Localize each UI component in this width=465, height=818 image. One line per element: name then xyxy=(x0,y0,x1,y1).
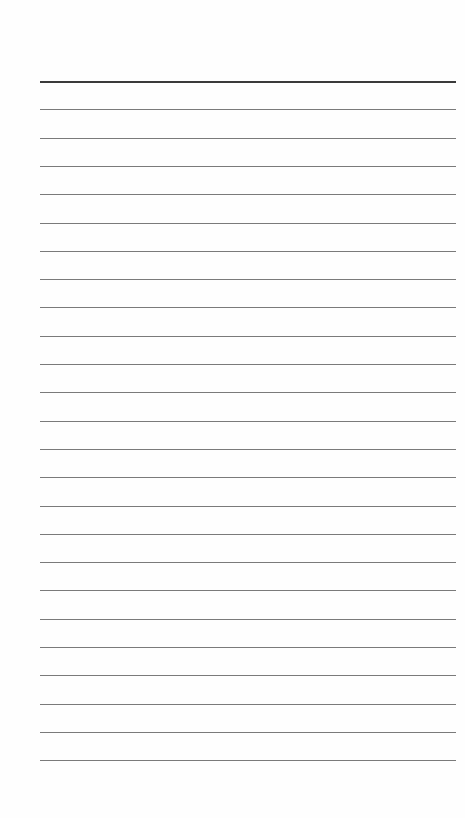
ruled-line xyxy=(40,307,456,308)
ruled-line xyxy=(40,590,456,591)
ruled-line xyxy=(40,421,456,422)
ruled-line xyxy=(40,506,456,507)
ruled-line xyxy=(40,109,456,110)
ruled-line xyxy=(40,704,456,705)
ruled-line xyxy=(40,619,456,620)
ruled-line xyxy=(40,166,456,167)
ruled-line xyxy=(40,364,456,365)
ruled-line xyxy=(40,647,456,648)
ruled-line xyxy=(40,251,456,252)
ruled-line xyxy=(40,392,456,393)
ruled-line xyxy=(40,194,456,195)
ruled-line xyxy=(40,477,456,478)
ruled-line xyxy=(40,138,456,139)
ruled-line xyxy=(40,732,456,733)
ruled-line xyxy=(40,449,456,450)
header-rule-line xyxy=(40,81,456,83)
ruled-line xyxy=(40,562,456,563)
lined-paper xyxy=(0,0,465,818)
ruled-line xyxy=(40,279,456,280)
ruled-line xyxy=(40,675,456,676)
ruled-line xyxy=(40,336,456,337)
ruled-line xyxy=(40,223,456,224)
ruled-line xyxy=(40,760,456,761)
ruled-line xyxy=(40,534,456,535)
